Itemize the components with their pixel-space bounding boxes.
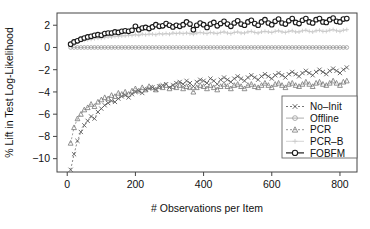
- data-point: [345, 28, 349, 32]
- data-point: [174, 31, 178, 35]
- chart-figure: 20−2−4−6−8−100200400600800 No–InitOfflin…: [0, 0, 370, 229]
- data-point: [181, 31, 185, 35]
- chart-canvas: 20−2−4−6−8−100200400600800 No–InitOfflin…: [0, 0, 370, 229]
- legend-label: PCR–B: [310, 136, 344, 147]
- data-point: [317, 79, 322, 84]
- data-point: [266, 30, 270, 34]
- data-point: [290, 16, 295, 21]
- data-point: [123, 89, 128, 94]
- data-point: [198, 30, 202, 34]
- data-point: [178, 31, 182, 35]
- y-tick-label: −2: [38, 64, 50, 76]
- y-tick-label: −4: [38, 86, 50, 98]
- data-point: [82, 123, 86, 127]
- data-point: [130, 28, 135, 33]
- data-point: [201, 31, 205, 35]
- x-tick-label: 400: [195, 178, 213, 190]
- data-point: [344, 16, 349, 21]
- data-point: [188, 22, 193, 27]
- data-point: [263, 29, 267, 33]
- data-point: [215, 82, 219, 86]
- x-axis-title: # Observations per Item: [151, 202, 263, 214]
- legend-label: Offline: [310, 113, 339, 124]
- data-point: [72, 152, 76, 156]
- data-point: [130, 33, 134, 37]
- y-axis-title: % Lift in Test Log-Likelihood: [3, 27, 15, 158]
- y-tick-label: 2: [44, 19, 50, 31]
- data-point: [133, 33, 137, 37]
- data-point: [86, 119, 90, 123]
- data-point: [276, 17, 281, 22]
- x-tick-label: 200: [127, 178, 145, 190]
- y-tick-label: −6: [38, 108, 50, 120]
- data-point: [123, 34, 127, 38]
- legend-layer: No–InitOfflinePCRPCR–BFOBFM: [282, 96, 357, 159]
- data-point: [79, 130, 83, 134]
- data-point: [184, 31, 188, 35]
- legend-label: PCR: [310, 124, 331, 135]
- data-point: [212, 31, 216, 35]
- data-point: [344, 78, 349, 83]
- x-tick-label: 800: [331, 178, 349, 190]
- series-fobfm: [68, 16, 349, 47]
- data-point: [188, 31, 192, 35]
- y-tick-label: −10: [32, 152, 50, 164]
- y-tick-label: 0: [44, 41, 50, 53]
- data-point: [144, 33, 148, 37]
- data-point: [191, 27, 196, 32]
- series-offline: [69, 46, 349, 50]
- data-point: [161, 32, 165, 36]
- y-tick-label: −8: [38, 130, 50, 142]
- x-tick-label: 600: [263, 178, 281, 190]
- data-point: [150, 32, 154, 36]
- data-point: [75, 139, 79, 143]
- legend-label: No–Init: [310, 101, 342, 112]
- data-point: [292, 150, 297, 155]
- data-point: [164, 31, 168, 35]
- x-tick-label: 0: [64, 178, 70, 190]
- legend-label: FOBFM: [310, 148, 345, 159]
